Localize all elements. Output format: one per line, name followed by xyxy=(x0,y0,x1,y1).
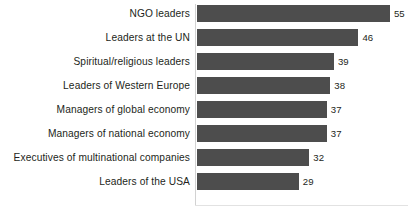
bar-wrap-3: 38 xyxy=(197,77,345,94)
bar-6[interactable] xyxy=(197,149,309,166)
bar-value-1: 46 xyxy=(362,32,373,44)
bar-chart: NGO leaders 55 Leaders at the UN 46 Spir… xyxy=(0,0,419,217)
bar-value-3: 38 xyxy=(334,80,345,92)
bar-wrap-2: 39 xyxy=(197,53,349,70)
category-label-5: Managers of national economy xyxy=(0,128,190,140)
bar-row: Leaders of Western Europe 38 xyxy=(0,77,419,94)
bar-rows: NGO leaders 55 Leaders at the UN 46 Spir… xyxy=(0,5,419,197)
bar-5[interactable] xyxy=(197,125,327,142)
bar-row: Leaders of the USA 29 xyxy=(0,173,419,190)
plot-area: NGO leaders 55 Leaders at the UN 46 Spir… xyxy=(0,0,419,217)
bar-wrap-6: 32 xyxy=(197,149,324,166)
bar-row: Executives of multinational companies 32 xyxy=(0,149,419,166)
bar-row: Managers of national economy 37 xyxy=(0,125,419,142)
bar-0[interactable] xyxy=(197,5,390,22)
bar-wrap-0: 55 xyxy=(197,5,405,22)
bar-row: Managers of global economy 37 xyxy=(0,101,419,118)
bar-value-0: 55 xyxy=(394,8,405,20)
bar-wrap-7: 29 xyxy=(197,173,313,190)
bar-value-2: 39 xyxy=(338,56,349,68)
bar-wrap-1: 46 xyxy=(197,29,373,46)
x-axis-baseline xyxy=(195,205,408,206)
bar-2[interactable] xyxy=(197,53,334,70)
bar-wrap-4: 37 xyxy=(197,101,341,118)
bar-value-4: 37 xyxy=(331,104,342,116)
bar-value-6: 32 xyxy=(313,152,324,164)
category-label-3: Leaders of Western Europe xyxy=(0,80,190,92)
bar-4[interactable] xyxy=(197,101,327,118)
category-label-4: Managers of global economy xyxy=(0,104,190,116)
category-label-0: NGO leaders xyxy=(0,8,190,20)
bar-wrap-5: 37 xyxy=(197,125,341,142)
category-label-1: Leaders at the UN xyxy=(0,32,190,44)
bar-3[interactable] xyxy=(197,77,330,94)
category-label-6: Executives of multinational companies xyxy=(0,152,190,164)
bar-1[interactable] xyxy=(197,29,358,46)
category-label-2: Spiritual/religious leaders xyxy=(0,56,190,68)
bar-row: NGO leaders 55 xyxy=(0,5,419,22)
bar-7[interactable] xyxy=(197,173,299,190)
bar-row: Leaders at the UN 46 xyxy=(0,29,419,46)
bar-value-7: 29 xyxy=(303,176,314,188)
bar-row: Spiritual/religious leaders 39 xyxy=(0,53,419,70)
bar-value-5: 37 xyxy=(331,128,342,140)
category-label-7: Leaders of the USA xyxy=(0,176,190,188)
